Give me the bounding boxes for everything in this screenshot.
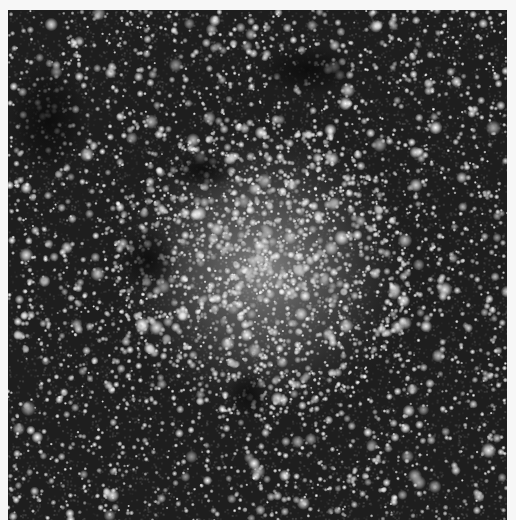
- star-field-image: Grayscale astronomical photograph of a d…: [8, 10, 507, 520]
- star-field-canvas: [8, 10, 507, 520]
